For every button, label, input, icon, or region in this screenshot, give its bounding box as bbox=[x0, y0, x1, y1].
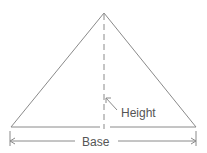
height-label: Height bbox=[121, 106, 156, 120]
base-label: Base bbox=[82, 135, 110, 149]
left-side bbox=[11, 13, 104, 127]
height-pointer-arrow bbox=[106, 98, 117, 110]
triangle-diagram: Height Base bbox=[0, 0, 207, 153]
